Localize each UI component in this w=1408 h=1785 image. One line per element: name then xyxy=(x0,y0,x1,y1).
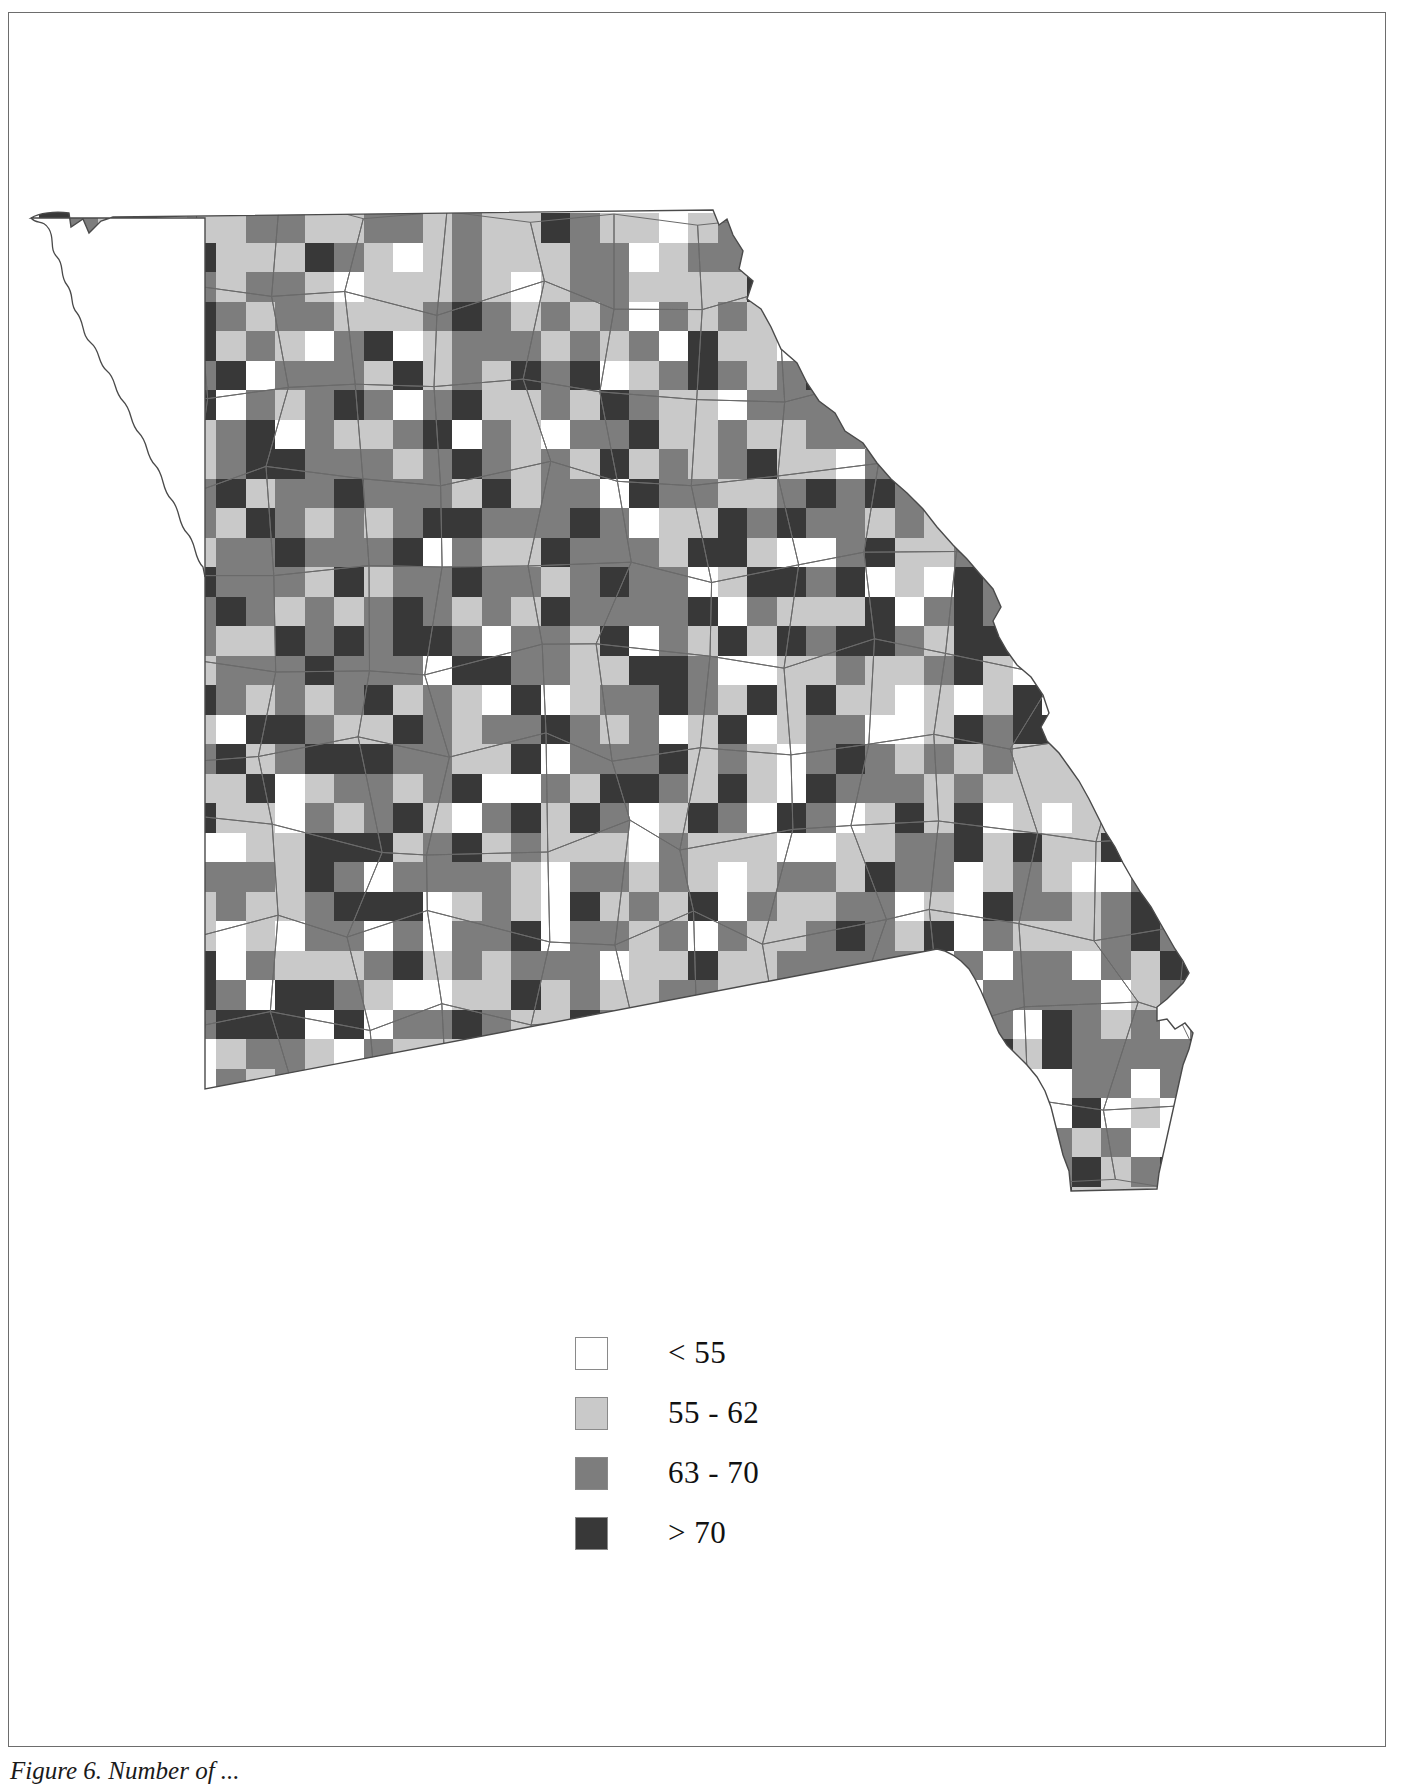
grid-cell xyxy=(718,980,748,1010)
grid-cell xyxy=(511,656,541,686)
grid-cell xyxy=(747,479,777,509)
grid-cell xyxy=(747,1098,777,1128)
grid-cell xyxy=(128,803,158,833)
grid-cell xyxy=(393,1010,423,1040)
grid-cell xyxy=(452,892,482,922)
grid-cell xyxy=(305,302,335,332)
grid-cell xyxy=(1160,361,1190,391)
grid-cell xyxy=(1190,567,1220,597)
grid-cell xyxy=(69,272,99,302)
grid-cell xyxy=(659,567,689,597)
grid-cell xyxy=(600,331,630,361)
grid-cell xyxy=(1160,538,1190,568)
county-boundary xyxy=(21,836,93,931)
county-boundary xyxy=(1028,392,1097,479)
county-boundary xyxy=(37,1015,131,1104)
legend-item-2[interactable]: 63 - 70 xyxy=(575,1443,995,1503)
grid-cell xyxy=(954,479,984,509)
grid-cell xyxy=(777,1039,807,1069)
legend-item-3[interactable]: > 70 xyxy=(575,1503,995,1563)
grid-cell xyxy=(865,951,895,981)
grid-cell xyxy=(246,656,276,686)
grid-cell xyxy=(688,1128,718,1158)
grid-cell xyxy=(954,567,984,597)
county-boundary xyxy=(15,390,113,486)
grid-cell xyxy=(216,331,246,361)
grid-cell xyxy=(334,243,364,273)
grid-cell xyxy=(275,1128,305,1158)
grid-cell xyxy=(482,803,512,833)
grid-cell xyxy=(983,833,1013,863)
grid-cell xyxy=(482,361,512,391)
grid-cell xyxy=(364,331,394,361)
grid-cell xyxy=(1131,833,1161,863)
grid-cell xyxy=(718,1187,748,1214)
grid-cell xyxy=(895,862,925,892)
grid-cell xyxy=(718,243,748,273)
grid-cell xyxy=(1072,744,1102,774)
grid-cell xyxy=(452,449,482,479)
grid-cell xyxy=(1013,626,1043,656)
grid-cell xyxy=(187,449,217,479)
grid-cell xyxy=(1101,213,1131,243)
grid-cell xyxy=(364,449,394,479)
grid-cell xyxy=(452,597,482,627)
grid-cell xyxy=(541,331,571,361)
grid-cell xyxy=(688,1187,718,1214)
grid-cell xyxy=(334,626,364,656)
grid-cell xyxy=(895,567,925,597)
county-boundary xyxy=(530,1092,614,1205)
grid-cell xyxy=(570,1187,600,1214)
grid-cell xyxy=(659,980,689,1010)
grid-cell xyxy=(1160,744,1190,774)
grid-cell xyxy=(246,1128,276,1158)
grid-cell xyxy=(600,862,630,892)
grid-cell xyxy=(865,656,895,686)
grid-cell xyxy=(1013,302,1043,332)
grid-cell xyxy=(511,1187,541,1214)
grid-cell xyxy=(305,715,335,745)
grid-cell xyxy=(69,1069,99,1099)
grid-cell xyxy=(777,1187,807,1214)
grid-cell xyxy=(128,1039,158,1069)
grid-cell xyxy=(1160,1069,1190,1099)
grid-cell xyxy=(570,420,600,450)
grid-cell xyxy=(895,774,925,804)
grid-cell xyxy=(541,243,571,273)
grid-cell xyxy=(541,1187,571,1214)
grid-cell xyxy=(128,361,158,391)
grid-cell xyxy=(1101,597,1131,627)
grid-cell xyxy=(334,803,364,833)
grid-cell xyxy=(187,361,217,391)
grid-cell xyxy=(895,1098,925,1128)
legend-item-1[interactable]: 55 - 62 xyxy=(575,1383,995,1443)
grid-cell xyxy=(541,272,571,302)
grid-cell xyxy=(747,420,777,450)
grid-cell xyxy=(836,1157,866,1187)
grid-cell xyxy=(305,272,335,302)
grid-cell xyxy=(187,1098,217,1128)
grid-cell xyxy=(98,656,128,686)
grid-cell xyxy=(423,685,453,715)
grid-cell xyxy=(128,951,158,981)
grid-cell xyxy=(747,1010,777,1040)
grid-cell xyxy=(187,626,217,656)
grid-cell xyxy=(157,803,187,833)
grid-cell xyxy=(836,1128,866,1158)
grid-cell xyxy=(983,538,1013,568)
grid-cell xyxy=(511,508,541,538)
grid-cell xyxy=(1160,685,1190,715)
grid-cell xyxy=(806,1187,836,1214)
grid-cell xyxy=(246,685,276,715)
grid-cell xyxy=(157,1039,187,1069)
legend-item-0[interactable]: < 55 xyxy=(575,1323,995,1383)
grid-cell xyxy=(570,479,600,509)
grid-cell xyxy=(98,272,128,302)
grid-cell xyxy=(69,892,99,922)
grid-cell xyxy=(1101,1069,1131,1099)
grid-cell xyxy=(246,479,276,509)
grid-cell xyxy=(39,420,69,450)
grid-cell xyxy=(806,420,836,450)
grid-cell xyxy=(1131,1010,1161,1040)
grid-cell xyxy=(128,980,158,1010)
